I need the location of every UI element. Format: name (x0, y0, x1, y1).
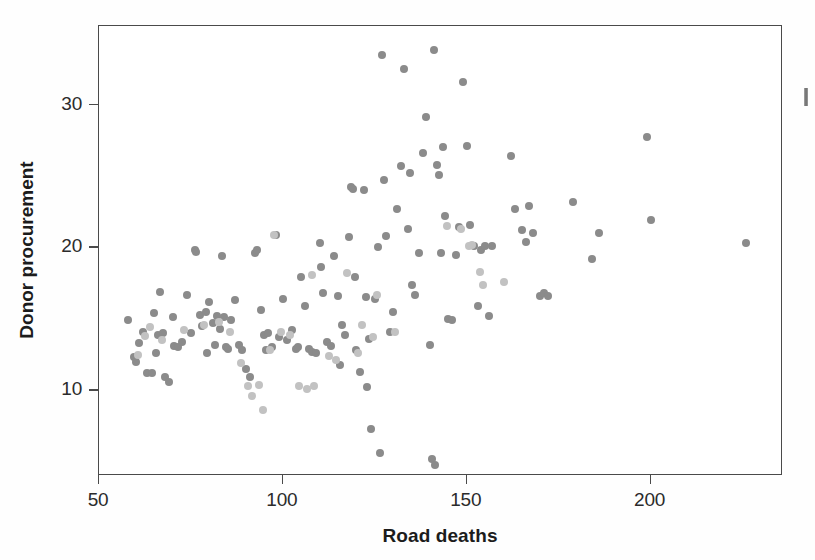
data-point (218, 252, 226, 260)
data-point (198, 322, 206, 330)
data-point (351, 273, 359, 281)
data-point (465, 242, 473, 250)
data-point (393, 205, 401, 213)
data-point (246, 373, 254, 381)
data-point (220, 313, 228, 321)
data-point (481, 242, 489, 250)
data-point (308, 271, 316, 279)
data-point (297, 273, 305, 281)
data-point (529, 229, 537, 237)
data-point (325, 352, 333, 360)
data-point (170, 342, 178, 350)
x-tick-mark (650, 475, 651, 484)
data-point (251, 249, 259, 257)
y-tick-mark (89, 104, 98, 105)
data-point (466, 221, 474, 229)
data-point (488, 242, 496, 250)
data-point (141, 332, 149, 340)
data-point (525, 202, 533, 210)
data-point (476, 268, 484, 276)
data-point (360, 186, 368, 194)
data-point (468, 241, 476, 249)
y-tick-label: 20 (61, 235, 82, 257)
data-point (288, 326, 296, 334)
data-point (511, 205, 519, 213)
data-point (522, 238, 530, 246)
data-point (159, 329, 167, 337)
data-point (433, 161, 441, 169)
data-point (742, 239, 750, 247)
plot-area (98, 25, 782, 475)
data-point (479, 281, 487, 289)
data-point (336, 361, 344, 369)
data-point (196, 311, 204, 319)
data-point (301, 302, 309, 310)
y-tick-label: 30 (61, 93, 82, 115)
data-point (411, 291, 419, 299)
data-point (152, 349, 160, 357)
data-point (215, 318, 223, 326)
x-tick-label: 50 (88, 489, 109, 511)
data-point (408, 281, 416, 289)
data-point (174, 343, 182, 351)
data-point (380, 176, 388, 184)
data-point (270, 231, 278, 239)
data-point (349, 185, 357, 193)
data-point (224, 345, 232, 353)
data-point (419, 149, 427, 157)
data-point (457, 225, 465, 233)
data-point (135, 339, 143, 347)
data-point (422, 113, 430, 121)
data-point (244, 382, 252, 390)
data-point (264, 329, 272, 337)
page-edge-artifact (804, 88, 808, 106)
data-point (400, 65, 408, 73)
data-point (444, 315, 452, 323)
data-point (268, 343, 276, 351)
data-point (319, 289, 327, 297)
data-point (222, 343, 230, 351)
data-point (404, 225, 412, 233)
data-point (154, 331, 162, 339)
data-point (317, 263, 325, 271)
data-point (187, 329, 195, 337)
data-point (332, 356, 340, 364)
data-point (354, 349, 362, 357)
data-point (158, 336, 166, 344)
data-point (371, 295, 379, 303)
data-point (283, 336, 291, 344)
data-point (150, 309, 158, 317)
data-point (211, 341, 219, 349)
data-point (376, 449, 384, 457)
x-tick-mark (282, 475, 283, 484)
data-point (238, 346, 246, 354)
data-point (242, 365, 250, 373)
data-point (266, 346, 274, 354)
y-tick-label: 10 (61, 378, 82, 400)
data-point (358, 321, 366, 329)
data-point (347, 183, 355, 191)
data-point (426, 341, 434, 349)
data-point (500, 278, 508, 286)
data-point (507, 152, 515, 160)
data-point (308, 348, 316, 356)
data-points-layer (99, 26, 781, 474)
data-point (439, 143, 447, 151)
data-point (540, 289, 548, 297)
data-point (180, 326, 188, 334)
y-tick-mark (89, 389, 98, 390)
data-point (295, 382, 303, 390)
data-point (406, 169, 414, 177)
data-point (397, 162, 405, 170)
data-point (374, 243, 382, 251)
data-point (443, 222, 451, 230)
data-point (275, 333, 283, 341)
data-point (341, 331, 349, 339)
data-point (373, 291, 381, 299)
data-point (248, 392, 256, 400)
y-axis-title: Donor procurement (10, 25, 44, 475)
data-point (205, 298, 213, 306)
data-point (203, 349, 211, 357)
data-point (334, 292, 342, 300)
data-point (237, 359, 245, 367)
